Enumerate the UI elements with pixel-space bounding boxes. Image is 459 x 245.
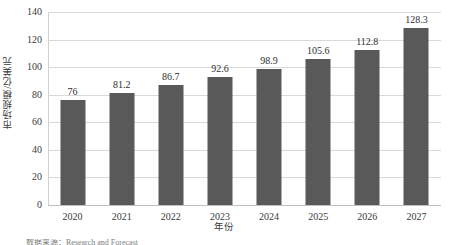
x-axis-tick-label: 2026 <box>357 212 377 222</box>
bar <box>306 59 331 205</box>
x-axis-title: 年份 <box>0 223 459 233</box>
bar <box>355 50 380 206</box>
bar-group: 92.62023 <box>195 12 244 205</box>
bar <box>109 93 134 205</box>
bar-value-label: 92.6 <box>211 64 229 74</box>
gridline <box>48 205 441 206</box>
figure-caption: 数据来源：Research and Forecast <box>26 239 138 245</box>
bar-series: 76202081.2202186.7202292.6202398.9202410… <box>48 12 441 205</box>
bar-value-label: 112.8 <box>356 37 378 47</box>
x-axis-tick-label: 2022 <box>161 212 181 222</box>
bar-value-label: 98.9 <box>260 56 278 66</box>
y-axis-tick-label: 140 <box>27 7 42 17</box>
bar <box>404 28 429 205</box>
x-axis-tick-label: 2024 <box>259 212 279 222</box>
bar-group: 98.92024 <box>245 12 294 205</box>
y-axis-tick-label: 100 <box>27 62 42 72</box>
bar-value-label: 86.7 <box>162 72 180 82</box>
bar-group: 81.22021 <box>97 12 146 205</box>
bar-value-label: 81.2 <box>113 80 131 90</box>
chart-figure: 市场规模/亿美元 020406080100120140 76202081.220… <box>0 0 459 245</box>
bar <box>158 85 183 205</box>
x-axis-tick-label: 2021 <box>112 212 132 222</box>
x-axis-tick-label: 2020 <box>63 212 83 222</box>
bar <box>60 100 85 205</box>
y-axis-tick-label: 0 <box>37 200 42 210</box>
bar-value-label: 76 <box>68 87 78 97</box>
bar-group: 86.72022 <box>146 12 195 205</box>
y-axis-tick-label: 120 <box>27 35 42 45</box>
x-axis-tick-label: 2023 <box>210 212 230 222</box>
y-axis-tick-label: 60 <box>32 117 42 127</box>
x-axis-tick-label: 2027 <box>406 212 426 222</box>
bar-group: 128.32027 <box>392 12 441 205</box>
y-axis-tick-label: 80 <box>32 90 42 100</box>
y-axis-tick-label: 20 <box>32 172 42 182</box>
bar <box>207 77 232 205</box>
bar-group: 762020 <box>48 12 97 205</box>
y-axis-tick-label: 40 <box>32 145 42 155</box>
bar-group: 112.82026 <box>343 12 392 205</box>
bar <box>257 69 282 205</box>
bar-group: 105.62025 <box>294 12 343 205</box>
plot-area: 020406080100120140 76202081.2202186.7202… <box>48 12 441 205</box>
x-axis-title-text: 年份 <box>214 223 234 233</box>
y-axis-title: 市场规模/亿美元 <box>4 56 18 129</box>
x-axis-tick-label: 2025 <box>308 212 328 222</box>
bar-value-label: 128.3 <box>405 15 428 25</box>
bar-value-label: 105.6 <box>307 46 330 56</box>
